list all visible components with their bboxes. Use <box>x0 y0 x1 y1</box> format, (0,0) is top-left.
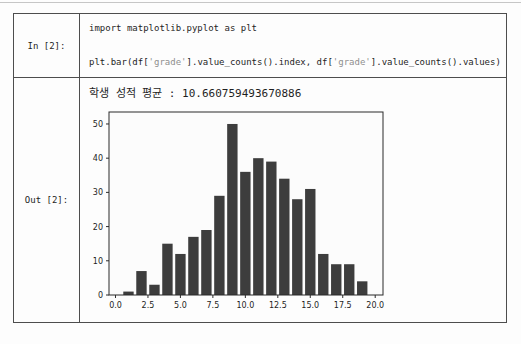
x-tick-label: 10.0 <box>236 301 254 310</box>
y-tick-label: 10 <box>93 257 103 266</box>
y-tick-label: 50 <box>93 120 103 129</box>
bar-x15 <box>305 189 315 295</box>
x-tick-label: 20.0 <box>366 301 384 310</box>
x-tick-label: 17.5 <box>334 301 352 310</box>
y-tick-label: 40 <box>93 154 103 163</box>
output-mean-text: 학생 성적 평균 : 10.660759493670886 <box>89 87 506 100</box>
code-line-2: plt.bar(df['grade'].value_counts().index… <box>89 57 506 68</box>
bar-x10 <box>240 172 250 295</box>
bar-x18 <box>344 264 354 295</box>
bar-x5 <box>175 254 185 295</box>
bar-x13 <box>279 179 289 295</box>
x-tick-label: 15.0 <box>301 301 319 310</box>
bar-x2 <box>136 271 146 295</box>
y-tick-label: 30 <box>93 188 103 197</box>
bar-x3 <box>149 285 159 295</box>
output-area: 학생 성적 평균 : 10.660759493670886 0.02.55.07… <box>80 78 506 322</box>
bar-x11 <box>253 158 263 295</box>
bar-x6 <box>188 237 198 295</box>
bar-x12 <box>266 162 276 295</box>
bar-x9 <box>227 124 237 295</box>
bar-x14 <box>292 199 302 295</box>
bar-x19 <box>357 281 367 295</box>
bar-x4 <box>162 244 172 295</box>
notebook-screenshot: In [2]: import matplotlib.pyplot as plt … <box>0 0 521 344</box>
x-tick-label: 5.0 <box>174 301 187 310</box>
x-tick-label: 12.5 <box>269 301 287 310</box>
bar-x7 <box>201 230 211 295</box>
x-tick-label: 0.0 <box>109 301 122 310</box>
input-prompt: In [2]: <box>14 14 80 78</box>
code-segment: ].value_counts().index, df[ <box>187 57 333 67</box>
notebook-cell-table: In [2]: import matplotlib.pyplot as plt … <box>13 13 507 323</box>
bar-x8 <box>214 196 224 295</box>
bar-x1 <box>123 292 133 295</box>
x-tick-label: 7.5 <box>207 301 220 310</box>
output-prompt-label: Out [2]: <box>25 195 68 205</box>
code-line-1: import matplotlib.pyplot as plt <box>89 23 506 34</box>
output-prompt: Out [2]: <box>14 78 80 322</box>
input-prompt-label: In [2]: <box>28 41 66 51</box>
page-top-rule <box>0 2 521 3</box>
bar-chart-figure: 0.02.55.07.510.012.515.017.520.001020304… <box>83 104 394 311</box>
x-tick-label: 2.5 <box>142 301 155 310</box>
code-input-area[interactable]: import matplotlib.pyplot as plt plt.bar(… <box>80 14 506 78</box>
bar-chart: 0.02.55.07.510.012.515.017.520.001020304… <box>83 104 394 311</box>
code-string-literal: 'grade' <box>333 57 371 67</box>
code-segment: ].value_counts().values) <box>371 57 501 67</box>
y-tick-label: 0 <box>98 291 103 300</box>
code-string-literal: 'grade' <box>149 57 187 67</box>
code-import-statement: import matplotlib.pyplot as plt <box>89 23 257 33</box>
code-segment: plt.bar(df[ <box>89 57 149 67</box>
bar-x17 <box>331 264 341 295</box>
y-tick-label: 20 <box>93 223 103 232</box>
bar-x16 <box>318 254 328 295</box>
